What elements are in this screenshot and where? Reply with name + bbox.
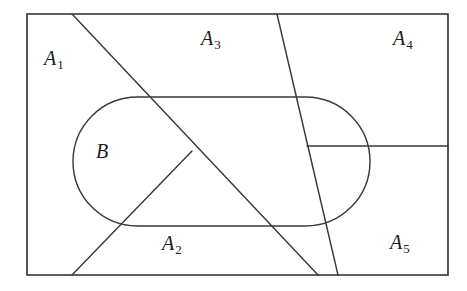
region-label-b: B — [96, 141, 109, 161]
region-label-a1-subscript: 1 — [57, 57, 64, 72]
cut-steep-line — [277, 14, 338, 275]
cut-v-branch — [72, 151, 192, 275]
region-label-a1: A1 — [44, 48, 63, 68]
region-label-a1-base: A — [44, 47, 57, 69]
region-label-a2-subscript: 2 — [175, 242, 182, 257]
region-label-b-base: B — [96, 140, 109, 162]
region-label-a3: A3 — [201, 28, 220, 48]
figure-canvas: A1 A2 A3 A4 A5 B — [0, 0, 467, 291]
region-label-a4: A4 — [393, 28, 412, 48]
region-label-a2-base: A — [162, 232, 175, 254]
region-label-a5-base: A — [390, 231, 403, 253]
region-label-a4-subscript: 4 — [406, 37, 413, 52]
region-label-a3-base: A — [201, 27, 214, 49]
region-label-a5-subscript: 5 — [403, 241, 410, 256]
outer-rectangle — [27, 14, 448, 275]
region-label-a4-base: A — [393, 27, 406, 49]
region-label-a5: A5 — [390, 232, 409, 252]
set-b-stadium — [73, 97, 370, 226]
region-label-a3-subscript: 3 — [214, 37, 221, 52]
region-label-a2: A2 — [162, 233, 181, 253]
